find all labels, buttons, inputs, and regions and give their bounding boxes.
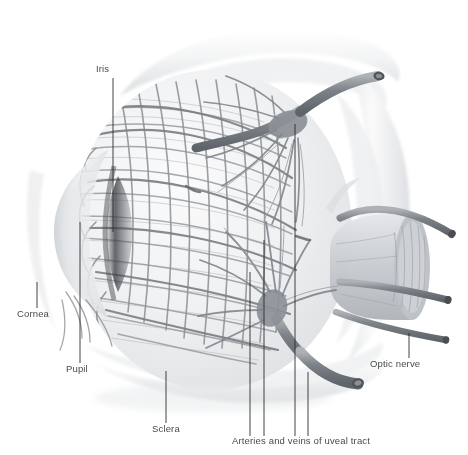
label-cornea: Cornea <box>17 308 50 319</box>
illustration-canvas: IrisCorneaPupilScleraOptic nerveArteries… <box>0 0 468 455</box>
label-optic-nerve: Optic nerve <box>370 358 420 369</box>
label-pupil: Pupil <box>66 363 88 374</box>
label-sclera: Sclera <box>152 423 180 434</box>
label-uveal-tract: Arteries and veins of uveal tract <box>232 435 370 446</box>
eye-vasculature-figure: IrisCorneaPupilScleraOptic nerveArteries… <box>0 0 468 455</box>
label-iris: Iris <box>96 63 109 74</box>
